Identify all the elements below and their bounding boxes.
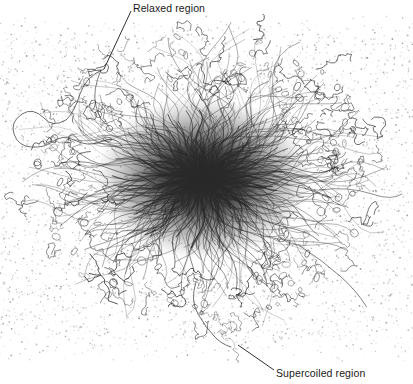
label-relaxed-region: Relaxed region bbox=[133, 2, 205, 14]
micrograph-plate bbox=[0, 14, 413, 363]
label-supercoiled-region: Supercoiled region bbox=[276, 367, 365, 379]
nucleoid-figure: Relaxed region Supercoiled region bbox=[0, 0, 413, 384]
nucleoid-dna-drawing bbox=[0, 14, 413, 363]
